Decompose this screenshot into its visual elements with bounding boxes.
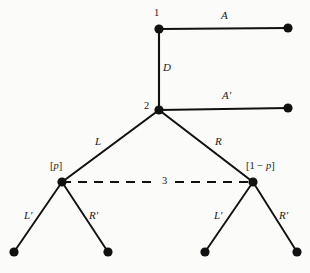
edge-label-A-prime: A′ <box>222 90 231 101</box>
terminal-node-right-R-prime <box>292 247 301 256</box>
node-label-2: 2 <box>144 101 149 112</box>
terminal-node-left-R-prime <box>103 247 112 256</box>
probability-label-p: [p] <box>50 161 62 172</box>
tree-canvas <box>0 0 310 273</box>
prob-left-suffix: ] <box>59 160 63 171</box>
edge-L-prime-left <box>14 182 62 252</box>
node-player-3-right <box>248 177 257 186</box>
edge-A <box>159 28 288 29</box>
prob-right-prefix: [1 − <box>246 160 266 171</box>
game-tree-diagram: 1 2 A D A′ L R L′ R′ L′ R′ 3 [p] [1 − p] <box>0 0 310 273</box>
node-label-1: 1 <box>154 8 159 19</box>
information-set-label-3: 3 <box>162 176 167 187</box>
terminal-node-A-prime <box>283 103 292 112</box>
probability-label-one-minus-p: [1 − p] <box>246 161 275 172</box>
edge-label-D: D <box>163 62 171 73</box>
edge-label-R: R <box>215 136 222 147</box>
node-player-1 <box>154 24 163 33</box>
prob-right-suffix: ] <box>271 160 275 171</box>
edge-R-prime-right <box>253 182 297 252</box>
terminal-node-right-L-prime <box>200 247 209 256</box>
node-player-2 <box>154 105 163 114</box>
edge-label-L-prime-right: L′ <box>214 210 223 221</box>
edge-label-A: A <box>221 10 228 21</box>
edge-label-R-prime-right: R′ <box>279 210 288 221</box>
node-player-3-left <box>57 177 66 186</box>
edge-L <box>62 110 159 182</box>
terminal-node-A <box>283 23 292 32</box>
edge-label-L: L <box>95 136 101 147</box>
edge-L-prime-right <box>205 182 253 252</box>
terminal-node-left-L-prime <box>9 247 18 256</box>
edge-label-L-prime-left: L′ <box>24 210 33 221</box>
edge-label-R-prime-left: R′ <box>89 210 98 221</box>
edge-R <box>159 110 253 182</box>
edge-A-prime <box>159 108 288 110</box>
edge-R-prime-left <box>62 182 108 252</box>
